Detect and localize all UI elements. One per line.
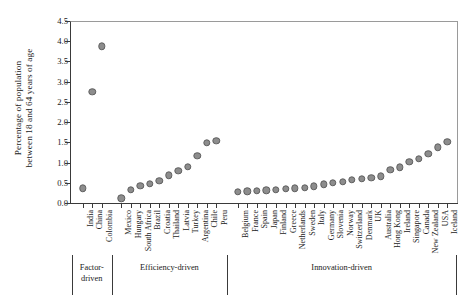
x-tick-mark xyxy=(131,203,132,208)
x-tick-mark xyxy=(159,203,160,208)
category-label: Slovenia xyxy=(336,210,345,238)
group-label-line: driven xyxy=(72,274,112,285)
category-label: Turkey xyxy=(191,210,200,233)
x-tick-mark xyxy=(352,203,353,208)
x-tick-mark xyxy=(150,203,151,208)
category-label: UK xyxy=(374,210,383,222)
y-tick-mark xyxy=(65,41,70,42)
y-axis-title: Percentage of population between 18 and … xyxy=(6,0,42,215)
group-label-line: Efficiency-driven xyxy=(112,263,228,274)
category-label: Spain xyxy=(260,210,269,228)
x-tick-mark xyxy=(197,203,198,208)
category-label: Japan xyxy=(270,210,279,228)
category-label: Mexico xyxy=(124,210,133,235)
x-tick-mark xyxy=(381,203,382,208)
category-label: Hong Kong xyxy=(393,210,402,248)
x-tick-mark xyxy=(409,203,410,208)
category-label: Germany xyxy=(327,210,336,240)
category-label: USA xyxy=(441,210,450,226)
x-tick-mark xyxy=(371,203,372,208)
category-label: Singapore xyxy=(412,210,421,243)
category-label: Denmark xyxy=(365,210,374,240)
category-label: Belgium xyxy=(241,210,250,238)
x-tick-mark xyxy=(216,203,217,208)
x-tick-mark xyxy=(92,203,93,208)
group-separator xyxy=(112,255,113,295)
x-tick-mark xyxy=(247,203,248,208)
x-tick-mark xyxy=(447,203,448,208)
category-label: Argentina xyxy=(201,210,210,242)
x-tick-mark xyxy=(169,203,170,208)
category-label: Greece xyxy=(289,210,298,233)
y-tick-mark xyxy=(65,61,70,62)
group-label-line: Innovation-driven xyxy=(227,263,456,274)
x-tick-mark xyxy=(419,203,420,208)
category-label: Latvia xyxy=(182,210,191,231)
x-tick-mark xyxy=(266,203,267,208)
chart-figure: Percentage of population between 18 and … xyxy=(0,0,467,305)
group-label: Efficiency-driven xyxy=(112,263,228,274)
category-label: Netherlands xyxy=(298,210,307,249)
category-label: France xyxy=(251,210,260,232)
category-label: China xyxy=(95,210,104,229)
group-label: Innovation-driven xyxy=(227,263,456,274)
y-tick-mark xyxy=(65,102,70,103)
x-tick-mark xyxy=(207,203,208,208)
y-tick-mark xyxy=(65,163,70,164)
x-tick-mark xyxy=(140,203,141,208)
x-tick-mark xyxy=(390,203,391,208)
category-label: Finland xyxy=(279,210,288,235)
group-label: Factor-driven xyxy=(72,263,112,284)
x-tick-mark xyxy=(121,203,122,208)
y-tick-mark xyxy=(65,203,70,204)
category-label: Croatia xyxy=(163,210,172,234)
category-label: Switzerland xyxy=(355,210,364,249)
x-tick-mark xyxy=(102,203,103,208)
group-separator xyxy=(227,255,228,295)
x-tick-mark xyxy=(324,203,325,208)
y-axis-title-line-2: between 18 and 64 years of age xyxy=(24,48,35,167)
x-tick-mark xyxy=(295,203,296,208)
y-tick-mark xyxy=(65,142,70,143)
y-axis-title-line-1: Percentage of population xyxy=(13,48,24,167)
x-tick-mark xyxy=(333,203,334,208)
category-label: Canada xyxy=(422,210,431,234)
y-tick-mark xyxy=(65,82,70,83)
category-label: Iceland xyxy=(450,210,459,234)
y-tick-mark xyxy=(65,21,70,22)
category-label: New Zealand xyxy=(431,210,440,253)
x-tick-mark xyxy=(362,203,363,208)
category-label: Thailand xyxy=(172,210,181,239)
category-label: Chile xyxy=(210,210,219,228)
group-separator xyxy=(456,255,457,295)
category-label: South Africa xyxy=(144,210,153,251)
x-tick-mark xyxy=(83,203,84,208)
x-tick-mark xyxy=(257,203,258,208)
y-tick-mark xyxy=(65,183,70,184)
x-tick-mark xyxy=(343,203,344,208)
category-label: Norway xyxy=(346,210,355,236)
group-label-line: Factor- xyxy=(72,263,112,274)
x-tick-mark xyxy=(428,203,429,208)
x-tick-mark xyxy=(276,203,277,208)
x-tick-mark xyxy=(438,203,439,208)
category-label: Australia xyxy=(384,210,393,240)
x-tick-mark xyxy=(305,203,306,208)
plot-area xyxy=(70,21,458,203)
x-tick-mark xyxy=(238,203,239,208)
category-label: Ireland xyxy=(403,210,412,233)
x-tick-mark xyxy=(286,203,287,208)
x-tick-mark xyxy=(188,203,189,208)
category-label: Peru xyxy=(220,210,229,225)
category-label: Hungary xyxy=(134,210,143,238)
category-label: India xyxy=(86,210,95,227)
x-tick-mark xyxy=(314,203,315,208)
category-label: Colombia xyxy=(105,210,114,242)
x-tick-mark xyxy=(178,203,179,208)
category-label: Sweden xyxy=(308,210,317,236)
x-tick-mark xyxy=(400,203,401,208)
y-tick-mark xyxy=(65,122,70,123)
category-label: Italy xyxy=(317,210,326,225)
category-label: Brazil xyxy=(153,210,162,230)
